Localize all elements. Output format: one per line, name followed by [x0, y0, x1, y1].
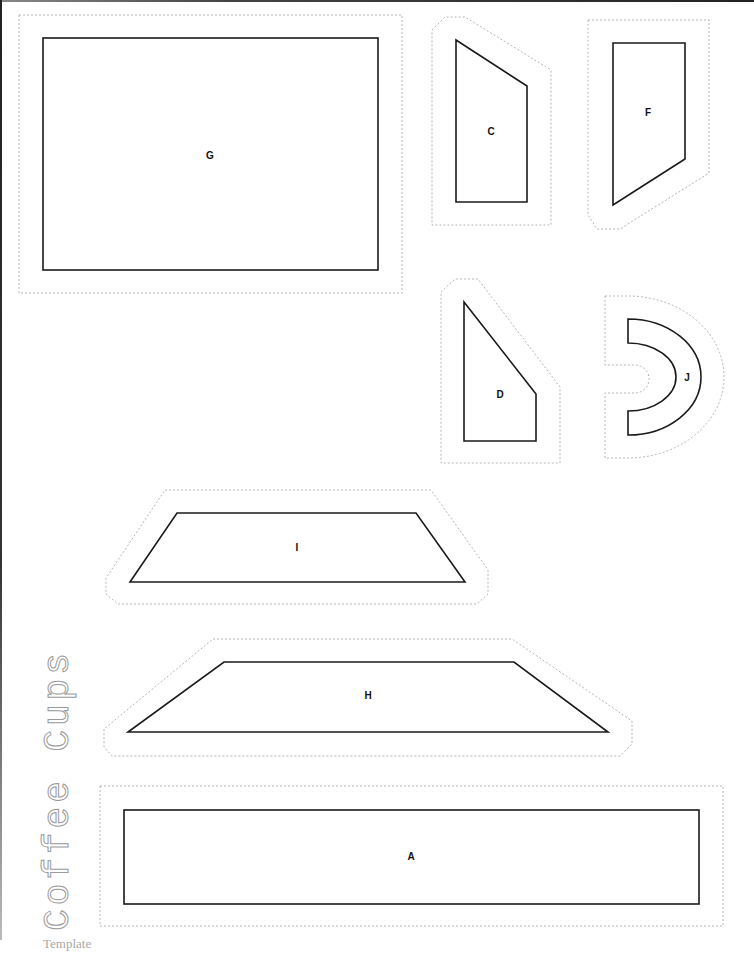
- outline-f: [613, 43, 685, 205]
- label-h: H: [364, 690, 371, 701]
- piece-d: D: [441, 279, 560, 463]
- label-f: F: [645, 107, 651, 118]
- label-a: A: [407, 851, 414, 862]
- piece-f: F: [588, 20, 709, 229]
- label-d: D: [496, 389, 503, 400]
- label-g: G: [206, 150, 214, 161]
- label-c: C: [487, 126, 494, 137]
- label-i: I: [296, 542, 299, 553]
- pieces-canvas: G C F D J I: [0, 0, 754, 974]
- template-title: Coffee Cups: [38, 649, 79, 931]
- outline-j: [628, 319, 701, 435]
- outline-d: [464, 302, 536, 441]
- piece-g: G: [19, 15, 402, 293]
- piece-a: A: [100, 786, 723, 926]
- piece-j: J: [605, 296, 724, 458]
- label-j: J: [684, 372, 690, 383]
- template-subtitle: Template: [43, 936, 91, 952]
- piece-h: H: [104, 639, 632, 756]
- piece-i: I: [106, 490, 488, 604]
- template-page: G C F D J I: [0, 0, 754, 974]
- piece-c: C: [432, 17, 551, 225]
- cut-line-j: [605, 296, 724, 458]
- outline-c: [456, 40, 527, 202]
